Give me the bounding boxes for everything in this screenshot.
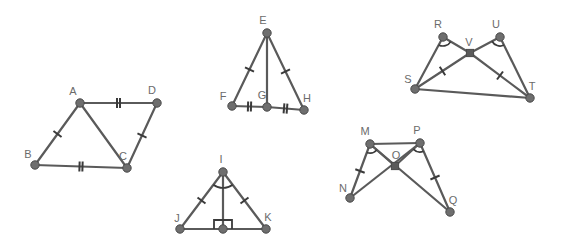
segment-mq [370,144,450,212]
vertex-label-v: V [465,36,473,48]
vertex-label-u: U [492,18,500,30]
vertex-point-e [263,29,271,37]
vertex-label-i: I [219,153,222,165]
triangle-pair-mnopq: MPONQ [339,124,458,216]
vertex-label-o: O [392,149,401,161]
triangle-pair-rsvut: RUVST [404,18,535,102]
vertex-point-r [439,33,447,41]
vertex-point-c [123,164,131,172]
vertex-point-p [416,139,424,147]
vertex-point-b [31,161,39,169]
vertex-point-o [391,162,398,169]
vertex-label-e: E [259,14,266,26]
vertex-point-n [346,194,354,202]
vertex-point-v [466,49,473,56]
vertex-label-c: C [119,150,127,162]
vertex-label-t: T [529,80,536,92]
quadrilateral-abcd: ABCD [24,84,161,172]
vertex-label-n: N [339,182,347,194]
vertex-point-i [219,168,227,176]
vertex-label-d: D [148,84,156,96]
segment-rs [415,37,443,89]
vertex-label-q: Q [449,194,458,206]
vertex-point-t [526,94,534,102]
vertex-label-s: S [404,73,411,85]
vertex-label-p: P [413,124,420,136]
vertex-point-a [76,99,84,107]
vertex-point-k [262,225,270,233]
segment-mp [370,143,420,144]
vertex-point-m [366,140,374,148]
vertex-point-d [153,99,161,107]
triangle-ijk-with-altitude: IJK [174,153,272,233]
vertex-label-g: G [258,89,267,101]
geometry-figure: ABCDEFGHRUVSTIJKMPONQ [0,0,565,248]
vertex-label-h: H [303,92,311,104]
tick-mark-gh [284,103,285,113]
vertex-point-j [176,225,184,233]
segment-bc [35,165,127,168]
segment-gh [267,107,304,110]
segment-fg [232,106,267,107]
vertex-point-f [228,102,236,110]
vertex-label-f: F [220,90,227,102]
vertex-point-g [263,103,271,111]
segment-st [415,89,530,98]
triangle-pair-efgh: EFGH [220,14,311,114]
tick-mark-gh [287,104,288,114]
vertex-label-b: B [24,148,31,160]
vertex-label-k: K [264,211,272,223]
vertex-point-l [219,225,227,233]
vertex-label-j: J [174,212,180,224]
vertex-label-a: A [69,85,77,97]
vertex-point-u [496,33,504,41]
vertex-point-q [446,208,454,216]
vertex-point-s [411,85,419,93]
vertex-label-m: M [360,125,369,137]
vertex-label-r: R [434,18,442,30]
vertex-point-h [300,106,308,114]
diagram-canvas: ABCDEFGHRUVSTIJKMPONQ [0,0,565,248]
segment-ut [500,37,530,98]
